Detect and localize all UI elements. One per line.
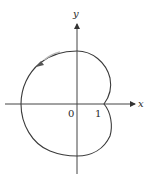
- polar-diagram: y x 0 1: [0, 0, 146, 178]
- y-axis-label: y: [72, 8, 79, 19]
- tick-label-1: 1: [95, 108, 101, 119]
- x-axis-label: x: [138, 98, 144, 109]
- direction-arrow-icon: [36, 61, 44, 67]
- origin-label: 0: [68, 108, 74, 119]
